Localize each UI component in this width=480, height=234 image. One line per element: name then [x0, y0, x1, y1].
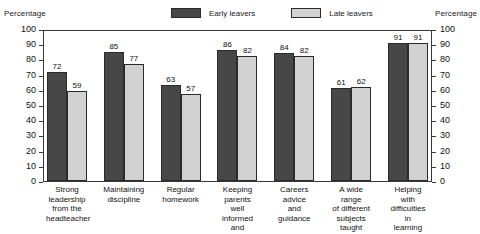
- y-tick-right-50: [432, 106, 436, 107]
- bar-value-label: 59: [73, 81, 82, 90]
- bar-value-label: 84: [280, 43, 289, 52]
- category-label: Strongleadershipfrom theheadteacher: [46, 185, 88, 234]
- bar-group: 9191: [388, 31, 428, 181]
- y-tick-right-60: [432, 91, 436, 92]
- bar-late-leavers[interactable]: 77: [124, 64, 144, 181]
- bar-slot: 77: [124, 31, 144, 181]
- y-tick-label-right-20: 20: [440, 146, 450, 156]
- legend-item-late-leavers: Late leavers: [291, 8, 373, 18]
- bar-slot: 91: [388, 31, 408, 181]
- y-tick-label-left-60: 60: [26, 85, 36, 95]
- bar-value-label: 63: [166, 75, 175, 84]
- bar-late-leavers[interactable]: 82: [237, 56, 257, 181]
- bar-slot: 63: [161, 31, 181, 181]
- legend-item-early-leavers: Early leavers: [171, 8, 255, 18]
- chart-header: Percentage Early leavers Late leavers Pe…: [0, 0, 480, 26]
- y-tick-left-0: [39, 182, 43, 183]
- y-tick-right-40: [432, 121, 436, 122]
- left-axis-caption: Percentage: [4, 9, 46, 18]
- bar-groups: 7259857763578682848261629191: [44, 31, 431, 181]
- bar-early-leavers[interactable]: 72: [47, 72, 67, 181]
- category-label: Keepingparentswell informedand involved: [216, 185, 258, 234]
- y-tick-label-left-0: 0: [31, 176, 36, 186]
- y-tick-label-left-30: 30: [26, 130, 36, 140]
- bar-slot: 82: [237, 31, 257, 181]
- bar-value-label: 61: [337, 78, 346, 87]
- y-tick-label-right-30: 30: [440, 130, 450, 140]
- category-label: Maintainingdiscipline: [103, 185, 145, 234]
- category-label: Regularhomework: [160, 185, 202, 234]
- bar-group: 6162: [331, 31, 371, 181]
- bar-value-label: 72: [53, 62, 62, 71]
- bar-group: 7259: [47, 31, 87, 181]
- bar-early-leavers[interactable]: 84: [274, 53, 294, 181]
- y-tick-right-30: [432, 136, 436, 137]
- bar-group: 8577: [104, 31, 144, 181]
- y-tick-label-right-70: 70: [440, 70, 450, 80]
- bar-slot: 62: [351, 31, 371, 181]
- bar-value-label: 77: [129, 54, 138, 63]
- legend-label-early-leavers: Early leavers: [209, 9, 255, 18]
- y-tick-right-90: [432, 45, 436, 46]
- bar-early-leavers[interactable]: 85: [104, 52, 124, 181]
- y-tick-label-left-100: 100: [21, 24, 36, 34]
- bar-value-label: 91: [414, 33, 423, 42]
- y-tick-label-right-60: 60: [440, 85, 450, 95]
- bar-slot: 59: [67, 31, 87, 181]
- category-label: Careersadviceandguidance: [273, 185, 315, 234]
- bar-slot: 84: [274, 31, 294, 181]
- y-tick-label-right-40: 40: [440, 115, 450, 125]
- bar-early-leavers[interactable]: 63: [161, 85, 181, 181]
- y-tick-right-70: [432, 76, 436, 77]
- y-tick-label-right-90: 90: [440, 39, 450, 49]
- y-tick-label-left-40: 40: [26, 115, 36, 125]
- y-tick-right-0: [432, 182, 436, 183]
- y-tick-label-right-10: 10: [440, 161, 450, 171]
- bar-slot: 61: [331, 31, 351, 181]
- bar-late-leavers[interactable]: 91: [408, 43, 428, 181]
- y-tick-right-20: [432, 152, 436, 153]
- y-tick-label-left-90: 90: [26, 39, 36, 49]
- bar-slot: 57: [181, 31, 201, 181]
- right-axis-caption: Percentage: [435, 9, 477, 18]
- legend-swatch-early-leavers-icon: [171, 8, 201, 18]
- y-tick-label-left-70: 70: [26, 70, 36, 80]
- y-tick-label-right-100: 100: [440, 24, 455, 34]
- y-tick-label-left-50: 50: [26, 100, 36, 110]
- category-label: Helping withdifficulties inlearning: [387, 185, 429, 234]
- bar-value-label: 82: [300, 46, 309, 55]
- bar-late-leavers[interactable]: 59: [67, 91, 87, 181]
- bar-group: 8482: [274, 31, 314, 181]
- bar-slot: 72: [47, 31, 67, 181]
- bar-slot: 82: [294, 31, 314, 181]
- bar-value-label: 86: [223, 40, 232, 49]
- bar-late-leavers[interactable]: 62: [351, 87, 371, 181]
- bar-value-label: 62: [357, 77, 366, 86]
- legend-swatch-late-leavers-icon: [291, 8, 321, 18]
- bar-early-leavers[interactable]: 91: [388, 43, 408, 181]
- y-tick-label-left-80: 80: [26, 54, 36, 64]
- bar-late-leavers[interactable]: 57: [181, 94, 201, 181]
- y-tick-right-100: [432, 30, 436, 31]
- bar-late-leavers[interactable]: 82: [294, 56, 314, 181]
- plot-area: 7259857763578682848261629191: [43, 30, 432, 182]
- y-tick-right-80: [432, 60, 436, 61]
- bar-slot: 91: [408, 31, 428, 181]
- bar-early-leavers[interactable]: 86: [217, 50, 237, 181]
- bar-value-label: 82: [243, 46, 252, 55]
- bar-group: 8682: [217, 31, 257, 181]
- bar-group: 6357: [161, 31, 201, 181]
- y-tick-label-right-50: 50: [440, 100, 450, 110]
- bar-value-label: 57: [186, 84, 195, 93]
- y-tick-label-right-80: 80: [440, 54, 450, 64]
- legend-label-late-leavers: Late leavers: [329, 9, 373, 18]
- bar-value-label: 85: [109, 42, 118, 51]
- category-label: A wide rangeof differentsubjectstaught: [330, 185, 372, 234]
- bar-slot: 86: [217, 31, 237, 181]
- y-tick-label-right-0: 0: [440, 176, 445, 186]
- x-axis-category-labels: Strongleadershipfrom theheadteacherMaint…: [43, 185, 432, 234]
- bar-value-label: 91: [394, 33, 403, 42]
- bar-early-leavers[interactable]: 61: [331, 88, 351, 181]
- y-tick-right-10: [432, 167, 436, 168]
- y-tick-label-left-20: 20: [26, 146, 36, 156]
